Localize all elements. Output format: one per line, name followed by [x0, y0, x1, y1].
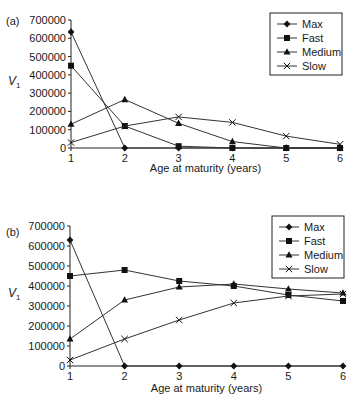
square-legend-icon: [286, 238, 292, 244]
x-tick-label: 1: [68, 152, 74, 164]
y-tick-label: 700000: [29, 14, 66, 26]
diamond-marker-icon: [68, 28, 75, 35]
y-tick-label: 100000: [29, 124, 66, 136]
x-marker-icon: [121, 336, 127, 342]
square-marker-icon: [67, 273, 73, 279]
series-line: [70, 294, 343, 360]
y-tick-label: 500000: [28, 260, 65, 272]
y-tick-label: 600000: [29, 32, 66, 44]
series-medium: [67, 280, 347, 341]
x-tick-label: 5: [285, 370, 291, 382]
x-tick-label: 4: [231, 370, 237, 382]
square-marker-icon: [340, 298, 346, 304]
y-tick-label: 500000: [29, 51, 66, 63]
square-marker-icon: [229, 145, 235, 151]
legend: MaxFastMediumSlow: [272, 216, 344, 278]
series-line: [71, 66, 340, 148]
series-slow: [68, 114, 343, 148]
panel-label: (b): [6, 226, 19, 238]
x-axis-label: Age at maturity (years): [151, 382, 262, 394]
y-tick-label: 400000: [29, 69, 66, 81]
diamond-marker-icon: [176, 362, 183, 369]
x-tick-label: 5: [283, 152, 289, 164]
y-tick-label: 100000: [28, 340, 65, 352]
diamond-marker-icon: [121, 362, 128, 369]
y-axis-label-subscript: 1: [16, 81, 21, 90]
figure: (a)V101000002000003000004000005000006000…: [0, 0, 359, 412]
legend-label: Medium: [304, 249, 343, 261]
series-slow: [67, 291, 346, 363]
triangle-marker-icon: [121, 96, 128, 102]
chart-panel-a: (a)V101000002000003000004000005000006000…: [6, 13, 344, 174]
legend: MaxFastMediumSlow: [270, 13, 342, 75]
x-marker-icon: [176, 317, 182, 323]
x-tick-label: 3: [176, 370, 182, 382]
diamond-marker-icon: [285, 362, 292, 369]
diamond-marker-icon: [67, 236, 74, 243]
square-marker-icon: [122, 267, 128, 273]
square-marker-icon: [176, 143, 182, 149]
legend-label: Max: [302, 18, 323, 30]
legend-label: Max: [304, 221, 325, 233]
y-tick-label: 400000: [28, 280, 65, 292]
y-tick-label: 600000: [28, 240, 65, 252]
x-tick-label: 6: [337, 152, 343, 164]
y-tick-label: 200000: [29, 105, 66, 117]
y-tick-label: 700000: [28, 220, 65, 232]
x-tick-label: 2: [122, 152, 128, 164]
square-legend-icon: [284, 35, 290, 41]
y-axis-label-subscript: 1: [16, 293, 21, 302]
x-tick-label: 1: [67, 370, 73, 382]
chart-panel-b: (b)V101000002000003000004000005000006000…: [6, 216, 347, 394]
legend-label: Fast: [304, 235, 325, 247]
legend-label: Medium: [302, 46, 341, 58]
diamond-marker-icon: [230, 362, 237, 369]
series-line: [71, 117, 340, 144]
x-tick-label: 2: [122, 370, 128, 382]
y-tick-label: 200000: [28, 320, 65, 332]
y-tick-label: 0: [60, 142, 66, 154]
legend-label: Fast: [302, 32, 323, 44]
series-medium: [68, 96, 344, 151]
y-tick-label: 300000: [29, 87, 66, 99]
y-tick-label: 300000: [28, 300, 65, 312]
panel-label: (a): [6, 15, 19, 27]
square-marker-icon: [285, 292, 291, 298]
x-axis-label: Age at maturity (years): [150, 162, 261, 174]
x-tick-label: 6: [340, 370, 346, 382]
series-line: [71, 100, 340, 148]
square-marker-icon: [176, 278, 182, 284]
legend-label: Slow: [302, 60, 326, 72]
square-marker-icon: [68, 63, 74, 69]
legend-label: Slow: [304, 263, 328, 275]
diamond-marker-icon: [340, 362, 347, 369]
triangle-marker-icon: [67, 335, 74, 341]
diamond-marker-icon: [121, 144, 128, 151]
y-tick-label: 0: [59, 360, 65, 372]
